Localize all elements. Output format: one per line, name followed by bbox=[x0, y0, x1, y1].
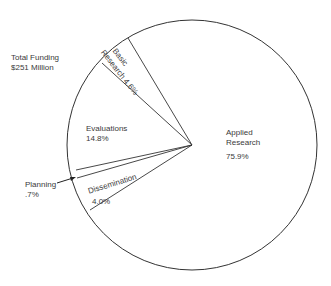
evaluations-value: 14.8% bbox=[86, 134, 127, 144]
arrow-head-icon bbox=[70, 177, 76, 181]
title-line-1: Total Funding bbox=[11, 53, 59, 63]
slice-label-applied-research: Applied Research 75.9% bbox=[226, 128, 260, 162]
planning-value: .7% bbox=[25, 190, 56, 200]
chart-title: Total Funding $251 Million bbox=[11, 53, 59, 73]
pie-chart bbox=[0, 0, 331, 286]
evaluations-label: Evaluations bbox=[86, 124, 127, 134]
applied-label-line-2: Research bbox=[226, 138, 260, 148]
slice-label-planning: Planning .7% bbox=[25, 180, 56, 200]
planning-boundary-top bbox=[76, 145, 192, 170]
applied-value: 75.9% bbox=[226, 152, 260, 162]
planning-label: Planning bbox=[25, 180, 56, 190]
slice-label-evaluations: Evaluations 14.8% bbox=[86, 124, 127, 144]
title-line-2: $251 Million bbox=[11, 63, 59, 73]
dissemination-value-wrap: 4.0% bbox=[92, 197, 110, 207]
dissemination-value: 4.0% bbox=[92, 197, 110, 207]
applied-label-line-1: Applied bbox=[226, 128, 260, 138]
